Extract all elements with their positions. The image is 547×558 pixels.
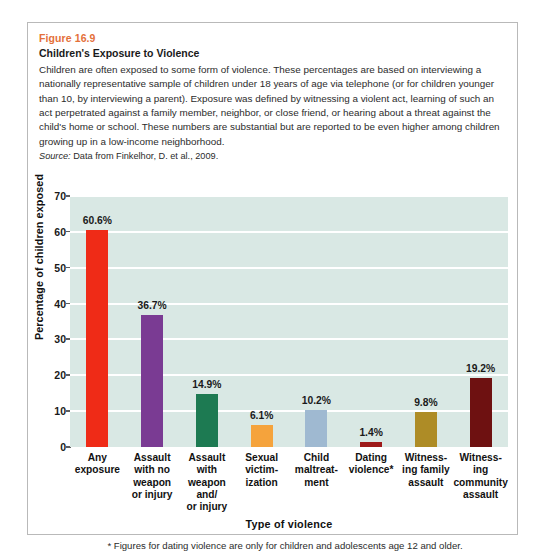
figure-source: Source: Data from Finkelhor, D. et al., … [39, 150, 506, 163]
source-label: Source: [39, 151, 71, 161]
figure-box: Figure 16.9 Children's Exposure to Viole… [27, 22, 518, 535]
chart-footnote: * Figures for dating violence are only f… [40, 540, 530, 552]
figure-number: Figure 16.9 [39, 32, 506, 45]
figure-title: Children's Exposure to Violence [39, 46, 506, 61]
figure-page: Figure 16.9 Children's Exposure to Viole… [0, 0, 547, 558]
figure-caption: Figure 16.9 Children's Exposure to Viole… [28, 23, 517, 163]
source-text: Data from Finkelhor, D. et al., 2009. [71, 151, 219, 161]
figure-description: Children are often exposed to some form … [39, 63, 506, 149]
